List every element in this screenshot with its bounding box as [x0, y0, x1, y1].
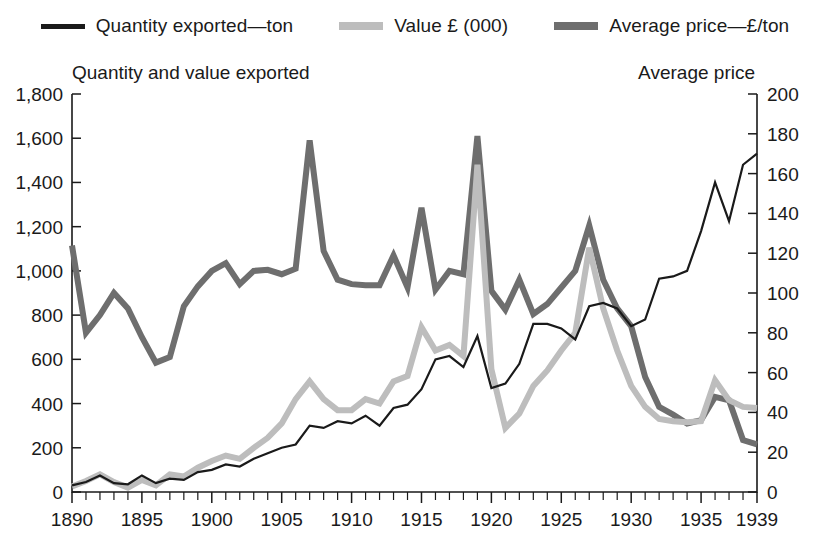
y2-ticklabel: 100	[767, 283, 799, 304]
y-ticklabel: 200	[31, 438, 63, 459]
y2-ticklabel: 60	[767, 363, 788, 384]
y-ticklabel: 1,800	[15, 84, 63, 105]
y-ticklabel: 1,000	[15, 261, 63, 282]
y2-ticklabel: 40	[767, 402, 788, 423]
chart-plot: 02004006008001,0001,2001,4001,6001,80002…	[0, 0, 830, 538]
y2-ticklabel: 200	[767, 84, 799, 105]
y-ticklabel: 1,200	[15, 217, 63, 238]
x-ticklabel: 1905	[261, 509, 303, 530]
series-line-quantity-exported-ton	[72, 154, 757, 486]
x-ticklabel: 1920	[470, 509, 512, 530]
y2-ticklabel: 80	[767, 323, 788, 344]
x-ticklabel: 1935	[680, 509, 722, 530]
y2-ticklabel: 120	[767, 243, 799, 264]
y-ticklabel: 800	[31, 305, 63, 326]
y-ticklabel: 1,400	[15, 172, 63, 193]
y2-ticklabel: 20	[767, 442, 788, 463]
y2-ticklabel: 180	[767, 124, 799, 145]
series-line-value	[72, 165, 757, 488]
x-ticklabel: 1895	[121, 509, 163, 530]
x-ticklabel: 1925	[540, 509, 582, 530]
y2-ticklabel: 140	[767, 203, 799, 224]
y2-ticklabel: 160	[767, 164, 799, 185]
y-ticklabel: 1,600	[15, 128, 63, 149]
x-ticklabel: 1910	[330, 509, 372, 530]
x-ticklabel: 1890	[51, 509, 93, 530]
x-ticklabel: 1915	[400, 509, 442, 530]
y-ticklabel: 400	[31, 394, 63, 415]
y-ticklabel: 0	[52, 482, 63, 503]
y-ticklabel: 600	[31, 349, 63, 370]
chart-container: Quantity exported—ton Value £ (000) Aver…	[0, 0, 830, 538]
x-ticklabel: 1900	[191, 509, 233, 530]
x-ticklabel: 1930	[610, 509, 652, 530]
x-ticklabel: 1939	[736, 509, 778, 530]
y2-ticklabel: 0	[767, 482, 778, 503]
